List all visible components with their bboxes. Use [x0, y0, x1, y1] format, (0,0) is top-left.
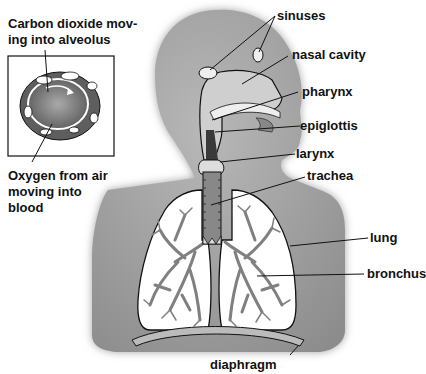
respiratory-diagram: Carbon dioxide mov- ing into alveolus Ox…	[0, 0, 426, 374]
trachea-shape	[203, 172, 221, 244]
label-bronchus: bronchus	[367, 266, 426, 281]
label-trachea: trachea	[307, 168, 353, 183]
alveolus-illustration	[20, 72, 100, 140]
o2-caption-line3: blood	[8, 200, 43, 215]
label-lung: lung	[370, 230, 397, 245]
co2-caption-line1: Carbon dioxide mov-	[8, 16, 137, 31]
o2-caption-line2: moving into	[8, 184, 82, 199]
label-larynx: larynx	[296, 146, 334, 161]
label-epiglottis: epiglottis	[300, 118, 358, 133]
label-pharynx: pharynx	[302, 84, 353, 99]
co2-caption-line2: ing into alveolus	[8, 32, 111, 47]
label-nasal-cavity: nasal cavity	[292, 47, 366, 62]
label-sinuses: sinuses	[277, 8, 325, 23]
o2-caption-line1: Oxygen from air	[8, 168, 108, 183]
sinus-left	[199, 67, 217, 79]
label-diaphragm: diaphragm	[210, 357, 276, 372]
sinus-right	[253, 48, 263, 62]
